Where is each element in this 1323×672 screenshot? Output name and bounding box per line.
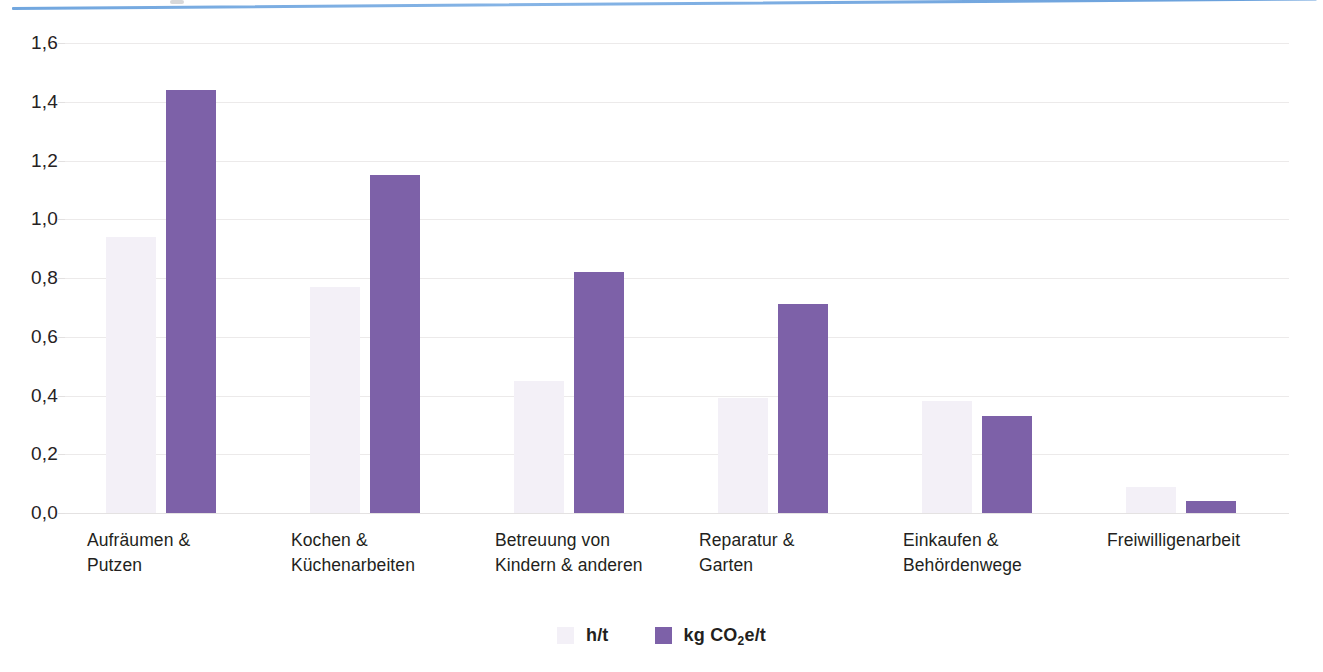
x-axis-categories: Aufräumen & PutzenKochen & Küchenarbeite… — [65, 528, 1289, 588]
legend-label-prefix: h/t — [586, 625, 609, 645]
legend-swatch-co2 — [655, 627, 672, 644]
y-axis-tick-label: 0,8 — [14, 268, 58, 287]
bar-ht[interactable] — [514, 381, 564, 513]
bar-ht[interactable] — [718, 398, 768, 513]
bar-group — [269, 43, 473, 513]
category-label: Freiwilligenarbeit — [1107, 528, 1297, 553]
y-tick-mark — [58, 454, 65, 455]
bar-co2[interactable] — [166, 90, 216, 513]
legend-label: h/t — [586, 625, 609, 646]
chart-legend: h/tkg CO2e/t — [0, 625, 1323, 646]
y-axis-tick-label: 1,0 — [14, 209, 58, 228]
legend-label: kg CO2e/t — [684, 625, 767, 646]
bar-group — [881, 43, 1085, 513]
plot-area — [65, 43, 1289, 513]
category-label: Reparatur & Garten — [699, 528, 889, 578]
category-label: Einkaufen & Behördenwege — [903, 528, 1093, 578]
bar-ht[interactable] — [922, 401, 972, 513]
category-label: Betreuung von Kindern & anderen — [495, 528, 685, 578]
bar-ht[interactable] — [310, 287, 360, 513]
y-axis-tick-label: 1,4 — [14, 92, 58, 111]
legend-swatch-ht — [557, 627, 574, 644]
bar-co2[interactable] — [982, 416, 1032, 513]
legend-label-suffix: e/t — [744, 625, 766, 645]
bar-ht[interactable] — [1126, 487, 1176, 513]
y-tick-mark — [58, 43, 65, 44]
gridline — [65, 513, 1289, 514]
bar-group — [473, 43, 677, 513]
legend-label-subscript: 2 — [738, 634, 745, 648]
y-tick-mark — [58, 396, 65, 397]
bar-group — [1085, 43, 1289, 513]
category-label: Kochen & Küchenarbeiten — [291, 528, 481, 578]
bar-group — [65, 43, 269, 513]
category-label: Aufräumen & Putzen — [87, 528, 277, 578]
y-axis-tick-label: 0,6 — [14, 327, 58, 346]
y-tick-mark — [58, 513, 65, 514]
bar-co2[interactable] — [778, 304, 828, 513]
bar-chart: 1,61,41,21,00,80,60,40,20,0 Aufräumen & … — [0, 0, 1323, 672]
legend-item[interactable]: kg CO2e/t — [655, 625, 767, 646]
bar-group — [677, 43, 881, 513]
y-tick-mark — [58, 337, 65, 338]
legend-label-prefix: kg CO — [684, 625, 738, 645]
y-tick-mark — [58, 219, 65, 220]
bar-co2[interactable] — [1186, 501, 1236, 513]
bar-ht[interactable] — [106, 237, 156, 513]
legend-item[interactable]: h/t — [557, 625, 609, 646]
y-axis-tick-label: 0,0 — [14, 503, 58, 522]
bar-co2[interactable] — [370, 175, 420, 513]
y-tick-mark — [58, 102, 65, 103]
y-axis-tick-label: 1,6 — [14, 33, 58, 52]
y-tick-mark — [58, 161, 65, 162]
bar-co2[interactable] — [574, 272, 624, 513]
y-axis-tick-label: 0,4 — [14, 386, 58, 405]
y-tick-mark — [58, 278, 65, 279]
y-axis-tick-label: 0,2 — [14, 444, 58, 463]
y-axis-tick-label: 1,2 — [14, 151, 58, 170]
